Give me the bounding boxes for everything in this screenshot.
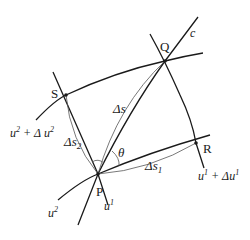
label-r: R	[203, 141, 212, 156]
label-u1: u1	[104, 198, 114, 213]
point-p-dot	[96, 172, 100, 176]
label-u2-plus-du2: u2 + Δ u2	[10, 125, 54, 140]
coordinate-curves-diagram: P Q R S c u1 u2 u1 + Δu1 u2 + Δ u2 Δs Δs…	[0, 0, 250, 240]
label-ds2: Δs2	[63, 134, 82, 151]
label-c: c	[190, 26, 196, 40]
label-p: P	[96, 184, 103, 199]
label-theta: θ	[118, 145, 125, 160]
point-s-dot	[64, 93, 68, 97]
point-r-dot	[194, 141, 198, 145]
label-s: S	[51, 86, 58, 101]
label-u1-plus-du1: u1 + Δu1	[198, 168, 239, 183]
diagram-canvas: P Q R S c u1 u2 u1 + Δu1 u2 + Δ u2 Δs Δs…	[0, 0, 250, 240]
label-u2: u2	[48, 205, 58, 220]
point-q-dot	[163, 59, 167, 63]
label-ds: Δs	[112, 101, 126, 116]
label-q: Q	[160, 39, 170, 54]
